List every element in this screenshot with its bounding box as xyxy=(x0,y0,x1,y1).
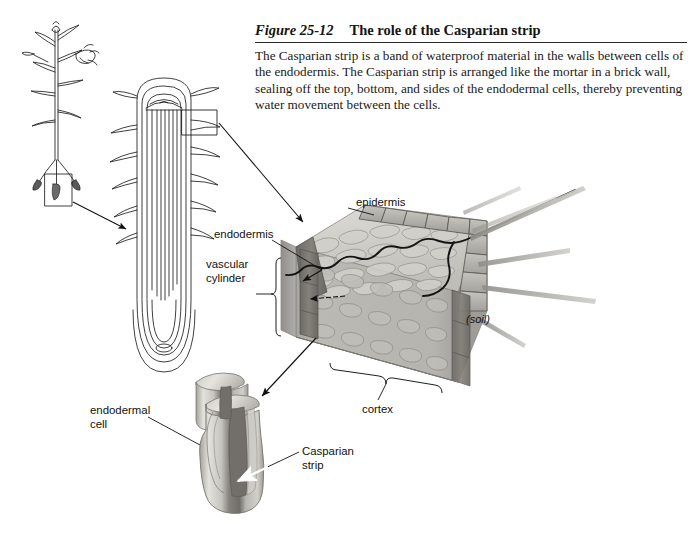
leader-cortex xyxy=(378,384,386,400)
endodermis-band-top xyxy=(296,237,327,302)
figure-caption: Figure 25-12The role of the Casparian st… xyxy=(255,22,687,114)
label-casparian-strip: Casparian strip xyxy=(302,445,354,472)
bracket-vascular-cylinder xyxy=(271,258,281,336)
root-tip-diagram xyxy=(110,78,220,372)
label-soil: (soil) xyxy=(466,313,490,327)
label-endodermis: endodermis xyxy=(214,228,274,242)
water-path-line xyxy=(286,190,575,275)
plant-illustration xyxy=(22,22,99,207)
epidermis-cell-column-right xyxy=(458,234,487,311)
figure-heading: Figure 25-12The role of the Casparian st… xyxy=(255,22,687,43)
epidermis-cell-row xyxy=(359,205,487,236)
water-path-branch xyxy=(423,242,454,296)
label-vascular-cylinder: vascular cylinder xyxy=(206,258,248,285)
leader-endodermal-cell xyxy=(148,417,200,445)
arrow-endodermis-upper xyxy=(303,270,322,281)
figure-title: The role of the Casparian strip xyxy=(350,22,541,38)
arrow-root-to-block xyxy=(219,123,303,222)
figure-description: The Casparian strip is a band of waterpr… xyxy=(255,48,687,114)
arrow-casparian-strip xyxy=(238,467,268,481)
casparian-strip-band xyxy=(229,407,248,497)
arrow-block-to-cell xyxy=(262,338,316,396)
figure-number: Figure 25-12 xyxy=(255,22,334,38)
label-endodermal-cell: endodermal cell xyxy=(90,404,150,431)
leader-endodermis xyxy=(272,240,322,270)
endodermal-cell-pair xyxy=(196,373,264,513)
arrow-endodermis-lower xyxy=(310,296,345,299)
figure-25-12: Figure 25-12The role of the Casparian st… xyxy=(0,0,692,549)
leader-casparian-strip xyxy=(238,452,299,481)
root-block-3d xyxy=(281,186,596,386)
label-cortex: cortex xyxy=(362,403,393,417)
endodermal-cell-body xyxy=(200,404,264,513)
arrow-plant-to-root xyxy=(73,202,126,229)
label-epidermis: epidermis xyxy=(356,196,405,210)
endodermis-strip-front-right xyxy=(452,290,470,386)
endodermis-strip-front-left xyxy=(300,249,318,339)
bracket-cortex xyxy=(330,363,442,393)
